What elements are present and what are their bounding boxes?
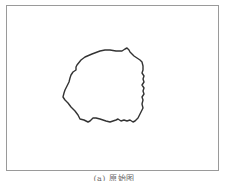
- contour-outline: [63, 48, 144, 122]
- figure-caption: (a) 原始图: [0, 174, 228, 181]
- contour-shape: [0, 0, 228, 181]
